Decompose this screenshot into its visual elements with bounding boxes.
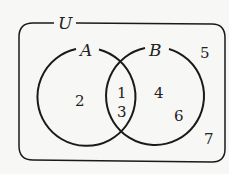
- element-1: 1: [117, 84, 127, 102]
- element-6: 6: [174, 107, 184, 125]
- set-a-label: A: [78, 40, 92, 60]
- universe-label: U: [58, 13, 73, 33]
- element-5: 5: [200, 44, 210, 62]
- element-2: 2: [75, 92, 85, 110]
- element-4: 4: [154, 84, 164, 102]
- venn-diagram: U A B 2 1 3 4 6 5 7: [0, 0, 229, 174]
- element-7: 7: [204, 130, 214, 148]
- set-b-label: B: [148, 40, 162, 60]
- element-3: 3: [117, 103, 127, 121]
